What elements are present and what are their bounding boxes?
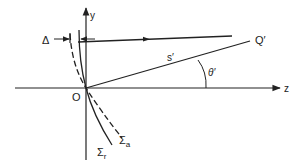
surface-a-curve bbox=[70, 34, 122, 138]
delta-label: Δ bbox=[42, 34, 50, 46]
surface-a-subscript: a bbox=[126, 140, 131, 149]
upper-ray-arrowhead bbox=[143, 37, 150, 42]
z-axis-label: z bbox=[284, 83, 289, 94]
angle-arc bbox=[198, 60, 206, 88]
surface-r-subscript: r bbox=[104, 152, 107, 161]
optics-diagram: z y O s′ Q′ θ′ Δ Σa Σr bbox=[0, 0, 299, 164]
surface-a-label: Σa bbox=[119, 134, 131, 149]
distance-label: s′ bbox=[167, 52, 174, 63]
y-axis-label: y bbox=[90, 10, 95, 21]
upper-ray bbox=[78, 36, 232, 42]
angle-label: θ′ bbox=[208, 67, 216, 78]
point-q-label: Q′ bbox=[255, 34, 266, 46]
origin-label: O bbox=[72, 91, 81, 103]
surface-r-label: Σr bbox=[97, 146, 107, 161]
ray-s-prime bbox=[86, 41, 250, 88]
